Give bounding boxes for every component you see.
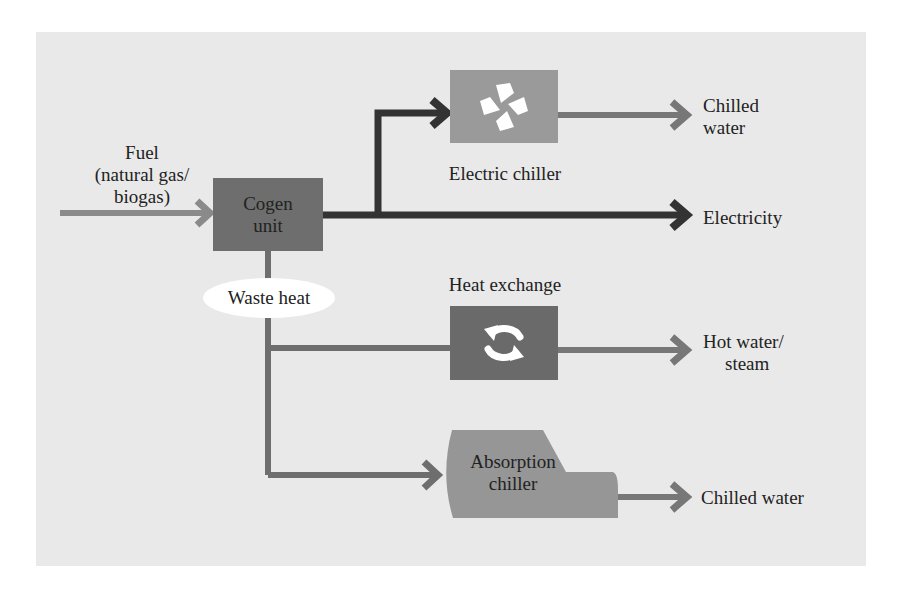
chilled-water-1-line2: water <box>703 117 759 139</box>
hot-water-line2: steam <box>703 353 784 375</box>
electric-chiller-label: Electric chiller <box>430 163 580 185</box>
chilled-water-1-line1: Chilled <box>703 95 759 117</box>
electric-chiller-feed-arrow <box>378 100 447 215</box>
electric-chiller-box <box>450 70 558 143</box>
fuel-label-line1: Fuel <box>82 142 202 164</box>
cogen-label-line2: unit <box>253 215 283 237</box>
cycle-arrows-icon <box>476 319 532 367</box>
fan-icon <box>476 79 532 135</box>
heat-exchange-label: Heat exchange <box>435 274 575 296</box>
absorption-chiller-line2: chiller <box>458 473 568 495</box>
hot-water-output: Hot water/ steam <box>703 331 784 375</box>
hot-water-line1: Hot water/ <box>703 331 784 353</box>
fuel-label: Fuel (natural gas/ biogas) <box>82 142 202 208</box>
fuel-label-line3: biogas) <box>82 186 202 208</box>
hot-water-arrow <box>557 337 687 363</box>
chilled-water-arrow-2 <box>618 484 687 510</box>
waste-heat-label: Waste heat <box>203 278 335 318</box>
chilled-water-output-1: Chilled water <box>703 95 759 139</box>
chilled-water-output-2: Chilled water <box>701 487 804 509</box>
cogen-unit-box: Cogen unit <box>213 178 323 251</box>
chilled-water-arrow-1 <box>558 102 687 128</box>
waste-heat-text: Waste heat <box>228 287 310 309</box>
absorption-chiller-line1: Absorption <box>458 451 568 473</box>
absorption-chiller-label: Absorption chiller <box>458 451 568 495</box>
fuel-label-line2: (natural gas/ <box>82 164 202 186</box>
electricity-output: Electricity <box>703 207 782 229</box>
cogen-label-line1: Cogen <box>243 193 293 215</box>
waste-heat-branches <box>268 316 450 488</box>
heat-exchange-box <box>450 306 558 380</box>
